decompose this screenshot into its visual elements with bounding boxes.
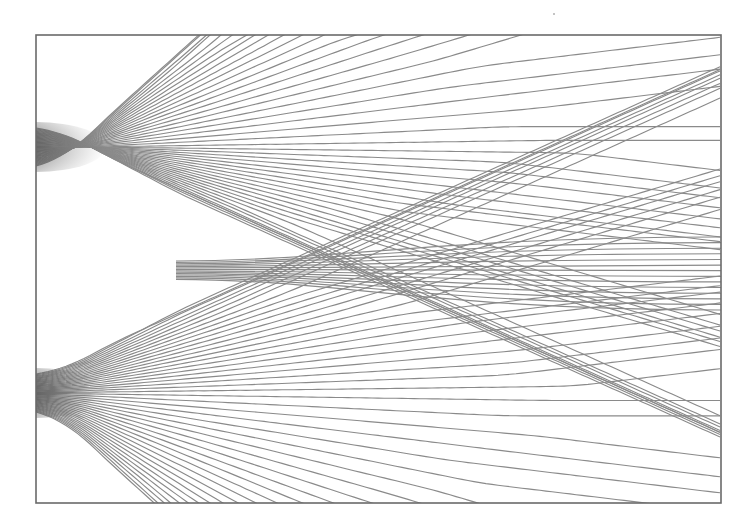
field-line bbox=[36, 182, 720, 383]
field-line bbox=[36, 409, 186, 509]
field-line bbox=[36, 88, 720, 379]
field-line bbox=[36, 396, 720, 477]
field-line bbox=[36, 141, 720, 242]
scan-speck bbox=[553, 13, 555, 15]
field-line bbox=[36, 29, 540, 152]
field-line bbox=[36, 399, 498, 510]
upper-source-core bbox=[0, 122, 106, 172]
field-lines bbox=[36, 25, 721, 512]
field-line bbox=[176, 269, 721, 270]
field-line bbox=[36, 402, 318, 509]
field-line bbox=[36, 393, 720, 400]
field-line bbox=[36, 398, 690, 509]
field-line-diagram bbox=[0, 0, 756, 528]
